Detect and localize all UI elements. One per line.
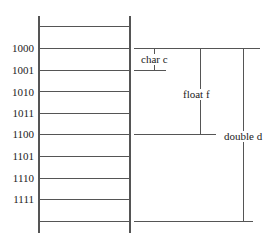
address-label: 1000 <box>0 43 34 54</box>
char-c-label: char c <box>139 54 170 65</box>
address-label: 1111 <box>0 194 34 205</box>
float-f-end-tick <box>134 134 216 135</box>
cell-divider <box>38 70 130 71</box>
start-reference-line <box>134 48 260 49</box>
cell-divider <box>38 199 130 200</box>
char-c-end-tick <box>134 70 166 71</box>
address-label: 1110 <box>0 173 34 184</box>
cell-divider <box>38 26 130 27</box>
double-d-end-tick <box>134 221 253 222</box>
cell-divider <box>38 134 130 135</box>
cell-divider <box>38 178 130 179</box>
address-label: 1100 <box>0 129 34 140</box>
cell-divider <box>38 91 130 92</box>
float-f-label: float f <box>181 89 212 100</box>
double-d-label: double d <box>222 131 264 142</box>
cell-divider <box>38 156 130 157</box>
address-label: 1001 <box>0 65 34 76</box>
address-label: 1010 <box>0 87 34 98</box>
address-label: 1011 <box>0 108 34 119</box>
cell-divider <box>38 48 130 49</box>
cell-divider <box>38 113 130 114</box>
cell-divider <box>38 221 130 222</box>
address-label: 1101 <box>0 151 34 162</box>
